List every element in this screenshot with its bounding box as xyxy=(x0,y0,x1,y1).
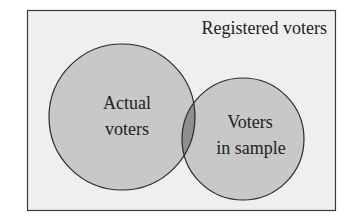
set-label-voters: voters xyxy=(105,119,149,139)
venn-diagram: Registered voters Actual voters Voters i… xyxy=(0,0,352,221)
set-label-actual: Actual xyxy=(103,93,151,113)
universe-label: Registered voters xyxy=(202,18,327,38)
set-label-in-sample: in sample xyxy=(216,138,286,158)
set-actual-voters xyxy=(49,44,195,190)
set-label-voters2: Voters xyxy=(227,112,273,132)
